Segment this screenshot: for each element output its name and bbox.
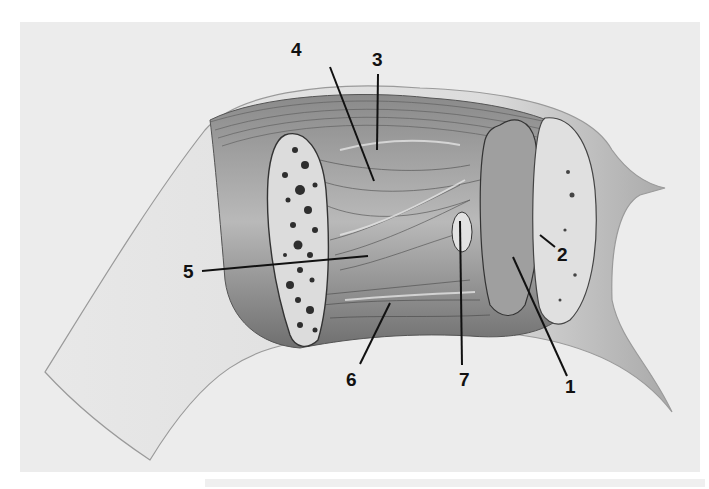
label-6: 6 bbox=[346, 370, 357, 389]
label-3: 3 bbox=[372, 50, 383, 69]
label-4: 4 bbox=[291, 40, 302, 59]
leader-line-3 bbox=[377, 74, 378, 150]
label-7: 7 bbox=[459, 370, 470, 389]
label-5: 5 bbox=[183, 262, 194, 281]
label-1: 1 bbox=[565, 377, 576, 396]
label-2: 2 bbox=[557, 245, 568, 264]
anatomical-illustration bbox=[0, 0, 709, 489]
small-structure bbox=[452, 212, 472, 252]
